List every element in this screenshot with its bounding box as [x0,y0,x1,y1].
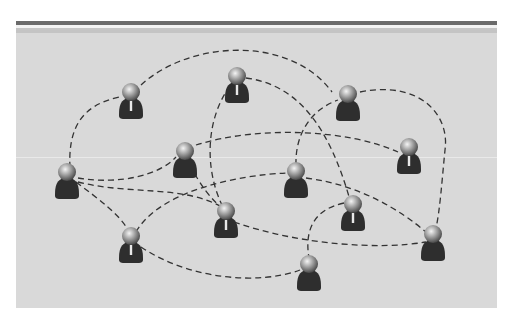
person-icon-e [55,163,79,199]
person-icon-l [297,255,321,291]
person-icon-a [119,83,143,119]
people-nodes [55,67,445,291]
person-icon-h [214,202,238,238]
person-icon-c [336,85,360,121]
edge-e-h [78,182,220,206]
edge-h-k [234,222,426,246]
edge-i-l [308,203,344,258]
person-icon-i [341,195,365,231]
edge-e-a [70,97,120,168]
edge-j-l [141,247,300,278]
edge-g-k [306,178,426,232]
network-diagram [0,0,510,316]
person-icon-b [225,67,249,103]
person-icon-j [119,227,143,263]
edge-e-f [78,157,176,180]
edge-g-c [296,100,338,165]
person-icon-d [397,138,421,174]
edge-b-h [210,86,230,205]
person-icon-g [284,162,308,198]
person-icon-f [173,142,197,178]
